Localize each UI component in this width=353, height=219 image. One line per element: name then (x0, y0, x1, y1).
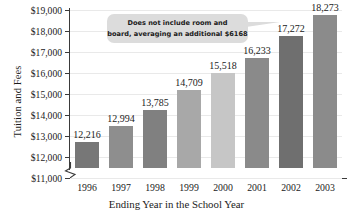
x-tick-label: 2001 (247, 182, 267, 193)
bar-value-label: 12,994 (107, 113, 135, 124)
bar-value-label: 13,785 (141, 97, 169, 108)
y-tick (65, 52, 70, 53)
bar-fill (109, 126, 133, 168)
y-axis-title: Tuition and Fees (12, 37, 23, 167)
x-axis-title: Ending Year in the School Year (0, 198, 353, 210)
x-tick-label: 2000 (213, 182, 233, 193)
x-tick-label: 1996 (77, 182, 97, 193)
bar-fill (211, 73, 235, 168)
y-tick (65, 115, 70, 116)
callout-tail (246, 22, 280, 29)
bar: 14,709 (177, 90, 201, 168)
tuition-bar-chart: Tuition and Fees $19,000$18,000$17,000$1… (0, 0, 353, 219)
bar-fill (279, 36, 303, 168)
x-tick-label: 1997 (111, 182, 131, 193)
y-tick-label: $15,000 (31, 89, 62, 100)
y-tick (65, 31, 70, 32)
room-and-board-callout: Does not include room and board, averagi… (107, 14, 248, 43)
y-tick-label: $11,000 (31, 173, 62, 184)
y-axis-line (69, 8, 70, 170)
bar-value-label: 17,272 (277, 23, 305, 34)
y-tick-label: $12,000 (31, 152, 62, 163)
y-tick-label: $19,000 (31, 5, 62, 16)
bar-value-label: 18,273 (311, 2, 339, 13)
y-tick (65, 94, 70, 95)
bar-fill (75, 142, 99, 168)
bar-value-label: 14,709 (175, 77, 203, 88)
y-tick (65, 136, 70, 137)
y-tick (65, 10, 70, 11)
callout-line-1: Does not include room and (127, 18, 227, 28)
bar-value-label: 16,233 (243, 45, 271, 56)
bar: 12,994 (109, 126, 133, 168)
bar: 18,273 (313, 15, 337, 168)
callout-line-2: board, averaging an additional $6168 (107, 29, 247, 39)
bar-fill (245, 58, 269, 168)
y-tick (65, 157, 70, 158)
bar-value-label: 15,518 (209, 60, 237, 71)
bar-fill (177, 90, 201, 168)
y-tick-label: $13,000 (31, 131, 62, 142)
bar: 13,785 (143, 110, 167, 168)
bar: 15,518 (211, 73, 235, 168)
gridline (70, 178, 342, 179)
gridline (70, 10, 342, 11)
y-tick-label: $17,000 (31, 47, 62, 58)
y-tick-label: $14,000 (31, 110, 62, 121)
x-tick-label: 1998 (145, 182, 165, 193)
bar-fill (143, 110, 167, 168)
y-tick-label: $16,000 (31, 68, 62, 79)
bar: 12,216 (75, 142, 99, 168)
x-tick-label: 1999 (179, 182, 199, 193)
x-tick-label: 2003 (315, 182, 335, 193)
bar-fill (313, 15, 337, 168)
y-tick-label: $18,000 (31, 26, 62, 37)
y-tick (65, 178, 70, 179)
bar: 17,272 (279, 36, 303, 168)
bar: 16,233 (245, 58, 269, 168)
y-tick (65, 73, 70, 74)
bar-value-label: 12,216 (73, 129, 101, 140)
x-tick-label: 2002 (281, 182, 301, 193)
